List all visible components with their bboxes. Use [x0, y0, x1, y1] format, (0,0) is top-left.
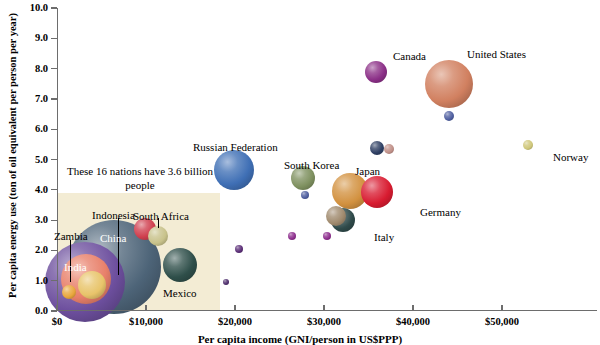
x-tick-label: $20,000	[190, 316, 280, 327]
x-tick-label: $50,000	[457, 316, 547, 327]
y-tick-mark	[51, 98, 57, 99]
bubble-canada[interactable]	[365, 61, 387, 83]
point-label-russian-federation: Russian Federation	[193, 142, 278, 153]
x-axis-line	[57, 310, 597, 311]
bubble-zambia[interactable]	[62, 285, 76, 299]
point-label-italy: Italy	[374, 232, 394, 243]
bubble-small-1[interactable]	[223, 279, 229, 285]
annotation-text: These 16 nations have 3.6 billion people	[56, 165, 224, 192]
x-tick-label: $30,000	[279, 316, 369, 327]
x-tick-label: $10,000	[101, 316, 191, 327]
x-tick-mark	[234, 305, 235, 311]
x-tick-mark	[145, 305, 146, 311]
bubble-egypt[interactable]	[148, 226, 168, 246]
bubble-germany[interactable]	[361, 176, 393, 208]
y-tick-mark	[51, 68, 57, 69]
bubble-small-7[interactable]	[384, 144, 394, 154]
point-label-south-korea: South Korea	[284, 160, 339, 171]
y-tick-mark	[51, 159, 57, 160]
y-tick-mark	[51, 7, 57, 8]
bubble-small-3[interactable]	[288, 232, 296, 240]
y-axis-line	[57, 8, 58, 311]
bubble-norway[interactable]	[523, 140, 533, 150]
y-axis-title: Per capita energy use (ton of oil equiva…	[7, 6, 18, 306]
leader-line-indonesia	[118, 218, 119, 275]
point-label-south-africa: South Africa	[133, 211, 189, 222]
bubble-small-4[interactable]	[323, 232, 331, 240]
bubble-small-8[interactable]	[444, 111, 454, 121]
y-tick-mark	[51, 220, 57, 221]
y-tick-mark	[51, 250, 57, 251]
bubble-united-states[interactable]	[425, 60, 473, 108]
y-tick-mark	[51, 280, 57, 281]
y-tick-mark	[51, 38, 57, 39]
point-label-canada: Canada	[393, 51, 426, 62]
bubble-mexico[interactable]	[163, 248, 197, 282]
bubble-small-6[interactable]	[370, 141, 384, 155]
x-tick-mark	[56, 305, 57, 311]
y-tick-mark	[51, 129, 57, 130]
x-tick-mark	[323, 305, 324, 311]
x-axis-title: Per capita income (GNI/person in US$PPP)	[0, 333, 600, 345]
point-label-india: India	[64, 262, 87, 273]
bubble-small-5[interactable]	[301, 191, 309, 199]
bubble-small-2[interactable]	[235, 245, 243, 253]
point-label-indonesia: Indonesia	[92, 210, 135, 221]
point-label-germany: Germany	[420, 207, 461, 218]
bubble-indonesia[interactable]	[78, 271, 106, 299]
point-label-japan: Japan	[355, 166, 380, 177]
point-label-china: China	[100, 233, 126, 244]
x-tick-label: $40,000	[368, 316, 458, 327]
x-tick-label: $0	[12, 316, 102, 327]
point-label-united-states: United States	[467, 49, 526, 60]
bubble-chart: 0.01.02.03.04.05.06.07.08.09.010.0 $0$10…	[0, 0, 600, 345]
point-label-norway: Norway	[553, 152, 588, 163]
bubble-italy-b[interactable]	[326, 206, 346, 226]
y-tick-label: 0.0	[12, 306, 48, 317]
x-tick-mark	[501, 305, 502, 311]
x-tick-mark	[412, 305, 413, 311]
point-label-zambia: Zambia	[54, 231, 88, 242]
point-label-mexico: Mexico	[163, 288, 197, 299]
